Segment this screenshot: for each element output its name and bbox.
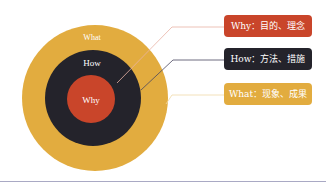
how-ring-label: How (83, 58, 101, 68)
why-label-box: Why：目的、理念 (224, 15, 312, 37)
what-label-text: What：现象、成果 (229, 89, 307, 99)
what-label-box: What：现象、成果 (224, 83, 312, 105)
how-label-text: How：方法、措施 (231, 54, 306, 64)
what-leader-line (166, 95, 224, 104)
why-label-text: Why：目的、理念 (231, 21, 305, 31)
footer-rule (0, 181, 326, 182)
how-label-box: How：方法、措施 (224, 48, 312, 70)
what-ring-label: What (83, 33, 101, 42)
why-core-label: Why (82, 95, 100, 105)
